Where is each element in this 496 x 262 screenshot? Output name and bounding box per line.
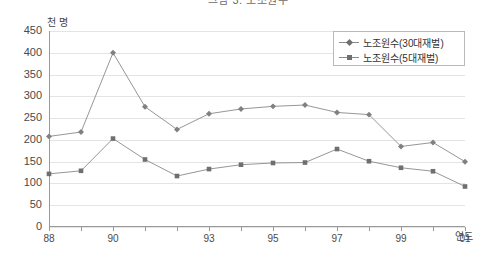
x-axis-tick: 97	[331, 233, 342, 244]
data-point[interactable]	[110, 50, 116, 56]
x-axis-tick-mark	[177, 227, 178, 231]
x-axis-tick-mark	[209, 227, 210, 231]
data-point[interactable]	[206, 111, 212, 117]
x-axis-tick: 93	[203, 233, 214, 244]
chart-legend: 노조원수(30대재벌) 노조원수(5대재벌)	[333, 31, 465, 66]
data-point[interactable]	[111, 136, 116, 141]
legend-marker-square-icon	[339, 53, 359, 63]
x-axis-tick-mark	[81, 227, 82, 231]
x-axis-tick-mark	[433, 227, 434, 231]
y-axis-tick: 300	[2, 89, 42, 101]
data-point[interactable]	[270, 103, 276, 109]
legend-label-5: 노조원수(5대재벌)	[363, 50, 438, 65]
x-axis-tick-mark	[401, 227, 402, 231]
y-axis-tick: 150	[2, 155, 42, 167]
x-axis-tick-mark	[305, 227, 306, 231]
data-point[interactable]	[239, 162, 244, 167]
data-point[interactable]	[431, 169, 436, 174]
chart-title: 그림 3. 노조원수	[0, 0, 496, 7]
data-point[interactable]	[462, 159, 468, 165]
y-axis-tick: 400	[2, 46, 42, 58]
data-point[interactable]	[238, 106, 244, 112]
x-axis-tick: 95	[267, 233, 278, 244]
y-axis-tick: 350	[2, 68, 42, 80]
legend-label-30: 노조원수(30대재벌)	[363, 35, 444, 50]
data-point[interactable]	[142, 104, 148, 110]
y-axis-tick: 200	[2, 133, 42, 145]
y-axis-tick: 250	[2, 111, 42, 123]
x-axis-tick-mark	[49, 227, 50, 231]
y-axis-unit-label: 천 명	[47, 14, 68, 29]
x-axis-tick-mark	[273, 227, 274, 231]
data-point[interactable]	[47, 172, 52, 177]
data-point[interactable]	[367, 159, 372, 164]
data-point[interactable]	[303, 160, 308, 165]
data-point[interactable]	[78, 129, 84, 135]
y-axis-tick: 450	[2, 24, 42, 36]
data-point[interactable]	[463, 184, 468, 189]
legend-item-30[interactable]: 노조원수(30대재벌)	[339, 35, 460, 50]
data-point[interactable]	[430, 140, 436, 146]
x-axis-tick: 88	[43, 233, 54, 244]
data-point[interactable]	[175, 174, 180, 179]
data-point[interactable]	[335, 147, 340, 152]
data-point[interactable]	[399, 165, 404, 170]
x-axis-tick-mark	[241, 227, 242, 231]
data-point[interactable]	[143, 157, 148, 162]
y-axis-tick: 100	[2, 176, 42, 188]
x-axis-tick-mark	[145, 227, 146, 231]
y-axis-tick: 50	[2, 198, 42, 210]
x-axis-tick-mark	[369, 227, 370, 231]
x-axis-tick-mark	[465, 227, 466, 231]
y-axis-tick: 0	[2, 220, 42, 232]
data-point[interactable]	[79, 169, 84, 174]
data-point[interactable]	[334, 109, 340, 115]
x-axis-tick: 99	[395, 233, 406, 244]
data-point[interactable]	[174, 126, 180, 132]
x-axis-tick-mark	[113, 227, 114, 231]
legend-item-5[interactable]: 노조원수(5대재벌)	[339, 50, 460, 65]
x-axis-tick: 01	[459, 233, 470, 244]
data-point[interactable]	[302, 102, 308, 108]
chart-container: 그림 3. 노조원수 천 명 연도 4504003503002502001501…	[0, 0, 496, 262]
x-axis-tick-mark	[337, 227, 338, 231]
data-point[interactable]	[271, 161, 276, 166]
x-axis-tick: 90	[107, 233, 118, 244]
data-point[interactable]	[207, 167, 212, 172]
legend-marker-diamond-icon	[339, 38, 359, 48]
data-point[interactable]	[46, 133, 52, 139]
